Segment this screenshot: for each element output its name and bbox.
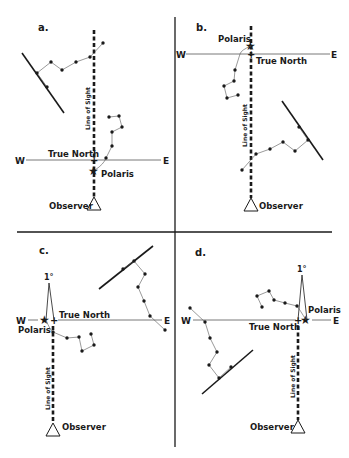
true-north-label: True North — [59, 310, 110, 320]
panel-a-label: a. — [38, 22, 49, 33]
polaris-label: Polaris — [308, 305, 341, 315]
east-label: E — [164, 316, 170, 326]
line-of-sight-label: Line of Sight — [241, 104, 249, 147]
panel-d: d. 1° W E + ★ Polaris True North Line of… — [181, 247, 341, 433]
polaris-star-icon: ★ — [88, 164, 99, 178]
east-label: E — [333, 316, 339, 326]
constellation-edge-line — [202, 350, 253, 394]
observer-label: Observer — [259, 201, 304, 211]
panel-b-label: b. — [196, 22, 207, 33]
polaris-diagram: a. W E True North Line of Sight + ★ Pola… — [0, 0, 349, 458]
west-label: W — [15, 156, 25, 166]
panel-c: c. 1° W E ★ + True North Polaris Line of… — [16, 245, 170, 436]
line-of-sight-label: Line of Sight — [44, 367, 52, 410]
panel-b: b. Line of Sight W E + True North ★ Pola… — [176, 22, 337, 211]
constellation-edge-line — [22, 53, 64, 113]
west-label: W — [176, 50, 186, 60]
polaris-star-icon: ★ — [300, 313, 311, 327]
constellation-edge-line — [99, 246, 153, 289]
angle-label: 1° — [44, 273, 54, 282]
west-label: W — [181, 316, 191, 326]
observer-label: Observer — [250, 422, 295, 432]
observer-label: Observer — [49, 201, 94, 211]
angle-label: 1° — [297, 265, 307, 274]
panel-a: a. W E True North Line of Sight + ★ Pola… — [15, 22, 169, 211]
observer-label: Observer — [62, 422, 107, 432]
polaris-label: Polaris — [18, 325, 51, 335]
panel-c-label: c. — [39, 245, 49, 256]
panel-d-label: d. — [195, 247, 206, 258]
true-north-label: True North — [249, 322, 300, 332]
constellation-a-lower — [95, 116, 122, 170]
observer-triangle-icon — [46, 423, 60, 436]
true-north-cross: + — [50, 315, 58, 326]
line-of-sight-label: Line of Sight — [84, 87, 92, 130]
polaris-label: Polaris — [218, 34, 251, 44]
constellation-d-lower — [190, 308, 231, 378]
true-north-label: True North — [256, 56, 307, 66]
east-label: E — [331, 50, 337, 60]
observer-triangle-icon — [244, 198, 258, 211]
line-of-sight-label: Line of Sight — [289, 355, 297, 398]
constellation-edge-line — [282, 101, 323, 160]
polaris-label: Polaris — [101, 169, 134, 179]
east-label: E — [163, 156, 169, 166]
